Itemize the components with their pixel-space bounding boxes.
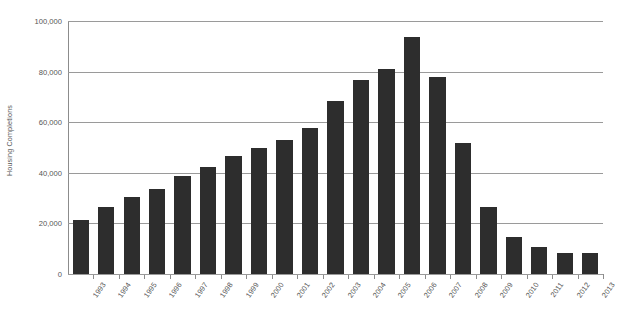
bar (506, 237, 522, 274)
x-axis-tick-label: 2013 (600, 281, 617, 300)
x-axis-tick-label: 2002 (320, 281, 337, 300)
y-axis-title: Housing Completions (0, 0, 20, 280)
x-axis-tick-label: 2005 (396, 281, 413, 300)
x-axis-tick-label: 2009 (498, 281, 515, 300)
y-axis-tick-label: 0 (58, 270, 62, 279)
x-axis-tick-label: 2007 (447, 281, 464, 300)
x-axis-tick-label: 1996 (167, 281, 184, 300)
y-axis-title-label: Housing Completions (6, 104, 15, 175)
x-axis-tick-label: 2011 (549, 281, 565, 299)
bar (174, 176, 190, 274)
bars-layer (68, 21, 603, 274)
x-axis-tick-label: 1997 (193, 281, 210, 300)
housing-completions-bar-chart: Housing Completions 020,00040,00060,0008… (0, 0, 621, 312)
bar (276, 140, 292, 274)
bar (378, 69, 394, 274)
x-axis-tick-label: 2003 (345, 281, 362, 300)
x-axis-tick-label: 2012 (575, 281, 592, 300)
y-axis-tick-label: 40,000 (39, 168, 62, 177)
bar (98, 207, 114, 274)
x-axis-tick-labels: 1993199419951996199719981999200020012002… (68, 279, 604, 312)
y-axis-tick-labels: 020,00040,00060,00080,000100,000 (20, 0, 68, 312)
x-axis-tick-label: 2008 (473, 281, 490, 300)
bar (200, 167, 216, 274)
bar (404, 37, 420, 274)
plot-area (68, 21, 603, 274)
x-axis-tick-label: 2001 (294, 281, 311, 300)
x-axis-tick-label: 2004 (371, 281, 388, 300)
bar (531, 247, 547, 274)
bar (455, 143, 471, 274)
bar (302, 128, 318, 274)
bar (149, 189, 165, 274)
bar (327, 101, 343, 274)
bar (582, 253, 598, 274)
bar (225, 156, 241, 274)
y-axis-tick-label: 60,000 (39, 118, 62, 127)
y-axis-tick-label: 20,000 (39, 219, 62, 228)
x-axis-tick-label: 1999 (243, 281, 260, 300)
x-axis-tick-label: 2000 (269, 281, 286, 300)
y-axis-tick-label: 100,000 (35, 17, 62, 26)
x-axis-tick-label: 2006 (422, 281, 439, 300)
bar (557, 253, 573, 275)
bar (73, 220, 89, 274)
bar (429, 77, 445, 274)
bar (124, 197, 140, 274)
x-axis-tick-label: 1998 (218, 281, 235, 300)
x-axis-tick-label: 2010 (524, 281, 541, 300)
x-axis-tick-label: 1995 (142, 281, 159, 300)
bar (353, 80, 369, 274)
x-axis-tick-label: 1994 (116, 281, 133, 300)
x-axis-tick-label: 1993 (91, 281, 108, 300)
bar (251, 148, 267, 274)
bar (480, 207, 496, 274)
y-axis-tick-label: 80,000 (39, 67, 62, 76)
